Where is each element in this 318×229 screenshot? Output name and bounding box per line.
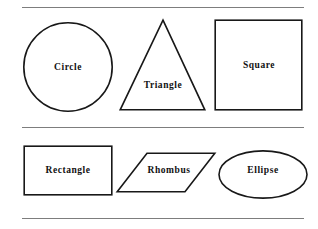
parallelogram-icon [116,152,216,193]
rectangle-icon [23,145,113,196]
top-divider-line [22,7,304,8]
shape-circle [23,22,113,112]
shape-rectangle [23,145,113,196]
bottom-divider-line [22,218,304,219]
circle-icon [23,22,113,112]
middle-divider-line [22,127,304,128]
shape-square [214,19,303,111]
shape-ellipse [218,150,308,199]
triangle-icon [119,19,206,111]
shape-rhombus [116,152,216,193]
ellipse-icon [218,150,308,199]
square-icon [214,19,303,111]
shape-triangle [119,19,206,111]
shapes-sheet: Circle Triangle Square Rectangle Rhombus… [0,0,318,229]
